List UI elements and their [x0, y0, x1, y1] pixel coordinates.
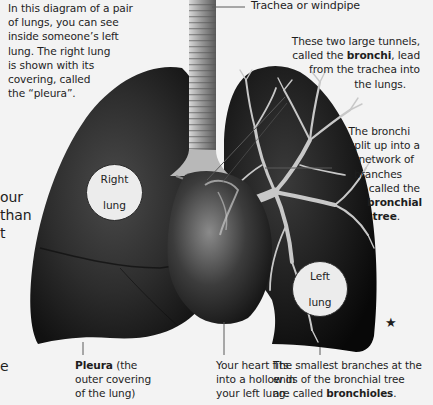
bronchi-label: These two large tunnels, called the bron…: [252, 34, 420, 91]
tree-line: branches: [320, 167, 422, 181]
bronchi-line: These two large tunnels,: [252, 34, 420, 48]
trachea-label: Trachea or windpipe: [251, 0, 360, 13]
cut-line: our: [0, 188, 31, 206]
bronchi-line: called the bronchi, lead: [252, 48, 420, 62]
bronchial-tree-label: The bronchi split up into a network of b…: [320, 124, 422, 223]
intro-line: is shown with its: [8, 58, 208, 72]
bronchioles-label: The smallest branches at the ends of the…: [273, 358, 433, 401]
intro-paragraph: In this diagram of a pair of lungs, you …: [8, 1, 208, 100]
star-icon: ★: [385, 316, 397, 330]
cut-off-text-middle: our than t: [0, 188, 31, 242]
intro-line: In this diagram of a pair: [8, 1, 208, 15]
pleura-line: of the lung): [75, 386, 155, 400]
bronchi-line: the lungs.: [252, 77, 420, 91]
cut-line: t: [0, 224, 31, 242]
intro-line: covering, called: [8, 72, 208, 86]
circle-text: Left: [300, 270, 340, 283]
tree-line: network of: [320, 152, 422, 166]
tree-line: split up into a: [320, 138, 422, 152]
left-lung-label: Leftlung: [292, 261, 348, 317]
tree-line: The bronchi: [320, 124, 422, 138]
bronchioles-line: are called bronchioles.: [273, 386, 433, 400]
bronchioles-line: ends of the bronchial tree: [273, 372, 433, 386]
pleura-line: Pleura (the: [75, 358, 155, 372]
intro-line: lung. The right lung: [8, 44, 208, 58]
pleura-label: Pleura (the outer covering of the lung): [75, 358, 155, 401]
cut-line: e: [0, 357, 9, 375]
tree-line: bronchial: [320, 195, 422, 209]
tree-line: tree.: [320, 209, 422, 223]
circle-text: Right: [95, 173, 135, 186]
pleura-line: outer covering: [75, 372, 155, 386]
bronchi-line: from the trachea into: [252, 62, 420, 76]
circle-text: lung: [300, 296, 340, 309]
tree-line: called the: [320, 181, 422, 195]
intro-line: the “pleura”.: [8, 86, 208, 100]
bronchioles-line: The smallest branches at the: [273, 358, 433, 372]
intro-line: inside someone’s left: [8, 29, 208, 43]
circle-text: lung: [95, 199, 135, 212]
intro-line: of lungs, you can see: [8, 15, 208, 29]
cut-line: than: [0, 206, 31, 224]
right-lung-label: Rightlung: [86, 164, 143, 221]
cut-off-text-bottom: e: [0, 357, 9, 375]
